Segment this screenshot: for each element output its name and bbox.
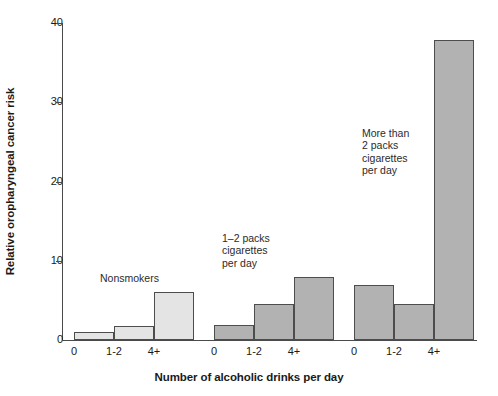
x-axis-title: Number of alcoholic drinks per day [0, 371, 498, 383]
x-tick-label-1: 1-2 [94, 345, 134, 357]
x-tick-label-0: 0 [54, 345, 94, 357]
annotation-nonsmokers: Nonsmokers [100, 272, 159, 284]
x-tick-label-5: 4+ [274, 345, 314, 357]
bar-g1-c2 [294, 277, 334, 340]
x-tick-label-8: 4+ [414, 345, 454, 357]
y-tick-30: 30 [26, 102, 63, 103]
annotation-1-2-packs: 1–2 packs cigarettes per day [222, 232, 270, 269]
y-tick-label-0: 0 [39, 334, 63, 345]
x-tick-label-4: 1-2 [234, 345, 274, 357]
bar-g0-c1 [114, 326, 154, 340]
x-axis-line [62, 340, 477, 341]
y-tick-10: 10 [26, 261, 63, 262]
bar-g2-c1 [394, 304, 434, 340]
bar-chart: Relative oropharyngeal cancer risk 40 30… [0, 0, 498, 396]
bar-g1-c1 [254, 304, 294, 340]
x-tick-label-6: 0 [334, 345, 374, 357]
y-tick-0: 0 [26, 340, 63, 341]
bar-g1-c0 [214, 325, 254, 340]
bar-g0-c2 [154, 292, 194, 340]
bar-g2-c0 [354, 285, 394, 340]
y-axis-title: Relative oropharyngeal cancer risk [2, 23, 18, 340]
x-tick-label-7: 1-2 [374, 345, 414, 357]
bar-g2-c2 [434, 40, 474, 340]
x-tick-label-3: 0 [194, 345, 234, 357]
y-tick-40: 40 [26, 23, 63, 24]
y-tick-20: 20 [26, 182, 63, 183]
bar-g0-c0 [74, 332, 114, 340]
annotation-more-than-2-packs: More than 2 packs cigarettes per day [362, 127, 409, 177]
x-tick-label-2: 4+ [134, 345, 174, 357]
plot-area [62, 23, 477, 340]
